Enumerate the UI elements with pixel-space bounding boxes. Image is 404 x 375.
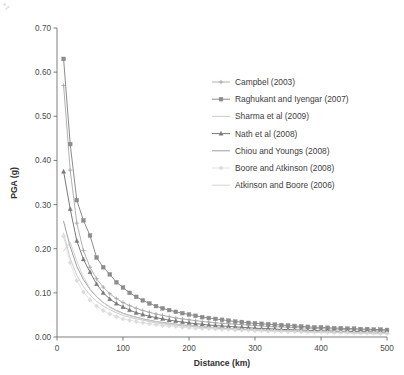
legend-item[interactable]: Raghukant and Iyengar (2007) — [212, 94, 349, 104]
y-tick-label: 0.50 — [35, 112, 51, 121]
marker-plus — [121, 300, 125, 304]
marker-square — [181, 311, 185, 315]
marker-square — [253, 321, 257, 325]
marker-plus — [219, 80, 223, 84]
marker-square — [280, 323, 284, 327]
marker-triangle — [81, 257, 85, 261]
series-line — [64, 236, 387, 333]
series-line — [64, 233, 387, 333]
chart-legend: Campbel (2003)Raghukant and Iyengar (200… — [212, 77, 349, 190]
x-tick-label: 0 — [55, 344, 60, 353]
marker-square — [148, 302, 152, 306]
marker-square — [88, 234, 92, 238]
y-tick-label: 0.60 — [35, 68, 51, 77]
marker-diamond — [75, 278, 79, 282]
x-tick-label: 400 — [314, 344, 328, 353]
legend-item[interactable]: Campbel (2003) — [212, 77, 295, 87]
marker-square — [115, 280, 119, 284]
marker-triangle — [68, 207, 72, 211]
x-tick-label: 300 — [248, 344, 262, 353]
marker-square — [62, 57, 66, 61]
legend-label: Chiou and Youngs (2008) — [235, 146, 330, 156]
marker-square — [187, 313, 191, 317]
marker-plus — [81, 248, 85, 252]
y-tick-label: 0.40 — [35, 156, 51, 165]
marker-diamond — [127, 318, 131, 322]
marker-diamond — [141, 321, 145, 325]
pga-distance-line-chart: 0.000.100.200.300.400.500.600.70 0100200… — [0, 0, 404, 375]
legend-label: Boore and Atkinson (2008) — [235, 163, 334, 173]
marker-square — [121, 286, 125, 290]
y-tick-label: 0.10 — [35, 289, 51, 298]
y-tick-label: 0.00 — [35, 333, 51, 342]
marker-square — [128, 291, 132, 295]
marker-square — [233, 320, 237, 324]
legend-label: Raghukant and Iyengar (2007) — [235, 94, 349, 104]
marker-triangle — [75, 238, 79, 242]
y-axis-tick-labels: 0.000.100.200.300.400.500.600.70 — [35, 24, 51, 342]
marker-diamond — [121, 317, 125, 321]
x-axis-title: Distance (km) — [194, 358, 250, 368]
marker-square — [167, 308, 171, 312]
x-axis-tick-labels: 0100200300400500 — [55, 344, 395, 353]
legend-label: Campbel (2003) — [235, 77, 295, 87]
series-line — [64, 242, 387, 333]
series-markers — [62, 83, 390, 332]
legend-item[interactable]: Atkinson and Boore (2006) — [212, 180, 335, 190]
marker-square — [68, 142, 72, 146]
marker-diamond — [219, 166, 223, 170]
marker-plus — [128, 304, 132, 308]
marker-square — [101, 265, 105, 269]
marker-square — [273, 323, 277, 327]
marker-square — [220, 318, 224, 322]
x-axis-ticks — [57, 337, 387, 341]
series-markers — [62, 169, 390, 334]
marker-square — [141, 298, 145, 302]
marker-square — [214, 317, 218, 321]
marker-square — [95, 256, 99, 260]
marker-square — [227, 319, 231, 323]
legend-item[interactable]: Nath et al (2008) — [212, 129, 298, 139]
marker-square — [219, 97, 223, 101]
marker-square — [260, 322, 264, 326]
marker-square — [207, 316, 211, 320]
marker-plus — [134, 306, 138, 310]
marker-square — [154, 304, 158, 308]
marker-triangle — [62, 169, 66, 173]
y-axis-title: PGA (g) — [9, 167, 19, 199]
marker-square — [266, 322, 270, 326]
legend-label: Nath et al (2008) — [235, 129, 298, 139]
x-tick-label: 100 — [116, 344, 130, 353]
marker-square — [174, 310, 178, 314]
data-series — [62, 83, 390, 332]
y-tick-label: 0.20 — [35, 245, 51, 254]
marker-plus — [68, 168, 72, 172]
marker-square — [82, 219, 86, 223]
marker-square — [200, 315, 204, 319]
marker-square — [247, 321, 251, 325]
legend-label: Sharma et al (2009) — [235, 111, 309, 121]
data-series — [64, 242, 387, 333]
data-series — [62, 169, 390, 334]
marker-diamond — [108, 312, 112, 316]
legend-item[interactable]: Sharma et al (2009) — [212, 111, 309, 121]
marker-square — [161, 306, 165, 310]
x-tick-label: 200 — [182, 344, 196, 353]
marker-square — [194, 314, 198, 318]
legend-label: Atkinson and Boore (2006) — [235, 180, 335, 190]
marker-plus — [75, 221, 79, 225]
marker-square — [134, 295, 138, 299]
marker-diamond — [101, 308, 105, 312]
legend-item[interactable]: Boore and Atkinson (2008) — [212, 163, 334, 173]
y-axis-ticks — [54, 28, 58, 337]
marker-diamond — [114, 314, 118, 318]
series-line — [64, 85, 387, 330]
marker-square — [240, 320, 244, 324]
marker-triangle — [114, 301, 118, 305]
data-series — [64, 233, 387, 333]
x-tick-label: 500 — [380, 344, 394, 353]
marker-diamond — [134, 319, 138, 323]
marker-square — [75, 198, 79, 202]
legend-item[interactable]: Chiou and Youngs (2008) — [212, 146, 330, 156]
marker-square — [108, 272, 112, 276]
